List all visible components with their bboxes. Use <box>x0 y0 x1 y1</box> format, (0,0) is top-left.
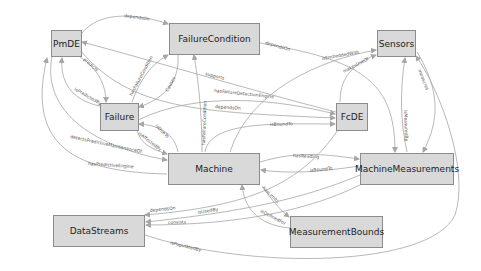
edge-label: hasFailureDetectionEngine <box>214 88 274 99</box>
node-machine-measurements[interactable]: MachineMeasurements <box>360 153 454 185</box>
edge-label: isBoundTo <box>270 121 293 127</box>
node-label: Machine <box>195 164 233 174</box>
edge-label: measures <box>417 69 430 92</box>
node-sensors[interactable]: Sensors <box>377 30 416 57</box>
node-failure[interactable]: Failure <box>100 103 139 131</box>
edge-label: detectsPredictiveMaintenanceOf <box>70 134 143 154</box>
node-fcde[interactable]: FcDE <box>336 103 368 131</box>
node-pmde[interactable]: PmDE <box>51 30 82 57</box>
edge-label: predicts <box>82 57 100 73</box>
edge-label: isDueTo <box>154 123 170 139</box>
edge-label: Causes <box>164 75 176 92</box>
node-label: MachineMeasurements <box>355 164 459 174</box>
edge-label: hasFailureCondition <box>201 101 208 146</box>
node-label: Sensors <box>379 39 415 49</box>
ontology-diagram: dependsOn predicts isPredictedBy hasFail… <box>0 0 481 271</box>
edge-label: consists <box>168 219 187 225</box>
node-measurement-bounds[interactable]: MeasurementBounds <box>290 216 383 248</box>
edge-label: isPredictedBy <box>74 87 103 107</box>
edge-label: isPopulatedBy <box>170 240 202 253</box>
node-failure-condition[interactable]: FailureCondition <box>169 23 260 55</box>
node-label: PmDE <box>53 39 80 49</box>
edge-label: isEmbeddedWith <box>321 49 359 61</box>
node-machine[interactable]: Machine <box>168 153 260 185</box>
edge-label: dependsOn <box>124 13 150 22</box>
edge-label: hasReading <box>293 153 320 159</box>
node-data-streams[interactable]: DataStreams <box>53 215 145 247</box>
node-label: DataStreams <box>70 226 129 236</box>
node-label: FailureCondition <box>178 34 251 44</box>
edge-label: isBoundTo <box>310 166 333 173</box>
node-label: MeasurementBounds <box>289 227 384 237</box>
node-label: Failure <box>105 112 135 122</box>
node-label: FcDE <box>341 112 364 122</box>
edge-label: dependsOn <box>215 104 241 111</box>
edge-machine-isboundto-fcde <box>205 124 335 152</box>
edge-pmde-dependson-failurecondition <box>82 16 168 33</box>
edge-label: dependsOn <box>265 40 291 52</box>
edge-sensors-measures-machinemeasurements <box>417 52 435 152</box>
